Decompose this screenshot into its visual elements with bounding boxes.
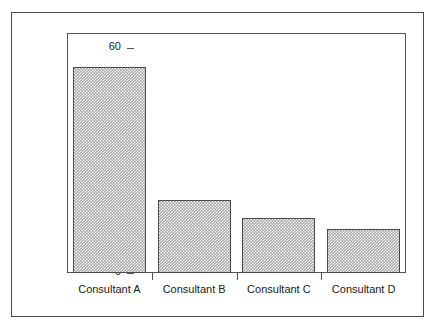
plot-area: Percentage of cases 0102030405060 [67, 33, 406, 273]
bar [327, 229, 400, 273]
x-tick-label: Consultant C [237, 283, 322, 295]
x-tick-label: Consultant A [67, 283, 152, 295]
y-tick-label: 60 [67, 40, 121, 52]
x-tick-label: Consultant D [321, 283, 406, 295]
bar [73, 67, 146, 273]
x-axis: Consultant AConsultant BConsultant CCons… [67, 273, 406, 313]
x-axis-tick [237, 273, 238, 280]
y-tick-mark [127, 48, 134, 49]
x-axis-tick [152, 273, 153, 280]
x-axis-tick [321, 273, 322, 280]
bar [242, 218, 315, 273]
x-tick-label: Consultant B [152, 283, 237, 295]
bar-chart-figure: Percentage of cases 0102030405060 Consul… [0, 0, 440, 329]
bar [158, 200, 231, 273]
